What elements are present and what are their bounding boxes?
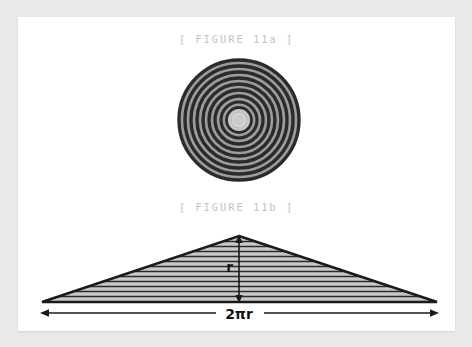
page-root: [ FIGURE 11a ] [0, 0, 472, 347]
base-arrow-head-left [40, 309, 49, 316]
figure-11b-graphic: r 2πr [18, 209, 455, 327]
concentric-rings [179, 60, 299, 180]
concentric-circles-svg [18, 57, 455, 183]
base-arrow-head-right [430, 309, 439, 316]
figure-11a-caption: [ FIGURE 11a ] [18, 33, 455, 45]
ring-center-dot [235, 116, 243, 124]
triangle-svg: r 2πr [18, 209, 455, 327]
base-label: 2πr [225, 306, 253, 322]
figure-card: [ FIGURE 11a ] [18, 17, 455, 331]
figure-11a-graphic [18, 57, 455, 183]
height-label: r [226, 259, 233, 275]
